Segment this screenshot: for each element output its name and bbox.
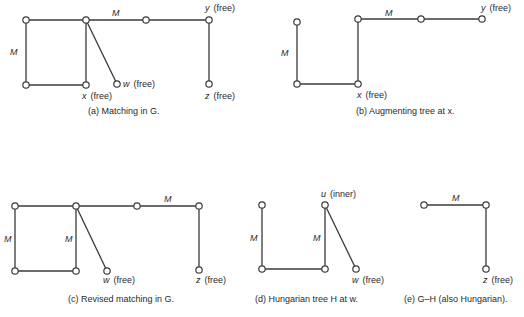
vertex-label-y: y(free)	[204, 3, 235, 13]
vertex-note: (free)	[91, 91, 113, 101]
vertex-w	[104, 268, 110, 274]
vertex-label-z: z(free)	[195, 275, 226, 285]
vertex-note: (inner)	[330, 189, 356, 199]
vertex-name: x	[81, 91, 87, 101]
vertex	[73, 203, 79, 209]
vertex	[134, 203, 140, 209]
vertex-label-z: z(free)	[204, 91, 235, 101]
vertex-label-x: x(free)	[81, 91, 112, 101]
vertex-label-x: x(free)	[356, 90, 387, 100]
vertex-note: (free)	[114, 275, 136, 285]
vertex-x	[355, 81, 361, 87]
panel-c: MMMw(free)z(free)(c) Revised matching in…	[4, 194, 226, 304]
matching-diagram: MMx(free)w(free)y(free)z(free)(a) Matchi…	[0, 0, 524, 317]
caption-a: (a) Matching in G.	[88, 106, 160, 116]
vertex	[421, 202, 427, 208]
matching-label: M	[281, 48, 289, 58]
vertex	[418, 16, 424, 22]
matching-label: M	[452, 193, 460, 203]
vertex	[73, 268, 79, 274]
vertex-note: (free)	[363, 275, 385, 285]
vertex	[322, 266, 328, 272]
matching-label: M	[65, 234, 73, 244]
matching-label: M	[313, 233, 321, 243]
vertex	[143, 17, 149, 23]
vertex-z	[206, 81, 212, 87]
vertex-x	[83, 82, 89, 88]
vertex-z	[483, 266, 489, 272]
vertex-label-u: u(inner)	[321, 189, 356, 199]
vertex	[196, 203, 202, 209]
vertex	[294, 19, 300, 25]
edge	[86, 20, 117, 84]
matching-label: M	[250, 233, 258, 243]
vertex-note: (free)	[492, 275, 514, 285]
panels-group: MMx(free)w(free)y(free)z(free)(a) Matchi…	[4, 3, 513, 304]
panel-e: Mz(free)(e) G–H (also Hungarian).	[404, 193, 513, 304]
vertex-name: z	[204, 91, 210, 101]
vertex-name: x	[356, 90, 362, 100]
vertex-name: u	[321, 189, 326, 199]
vertex-note: (free)	[205, 275, 227, 285]
vertex	[294, 81, 300, 87]
vertex-note: (free)	[134, 79, 156, 89]
vertex	[23, 17, 29, 23]
vertex-w	[353, 266, 359, 272]
vertex-name: w	[123, 79, 130, 89]
caption-b: (b) Augmenting tree at x.	[356, 106, 455, 116]
matching-label: M	[164, 194, 172, 204]
vertex-note: (free)	[490, 3, 512, 13]
vertex	[12, 203, 18, 209]
caption-e: (e) G–H (also Hungarian).	[404, 294, 508, 304]
vertex	[259, 266, 265, 272]
matching-label: M	[385, 8, 393, 18]
vertex	[12, 268, 18, 274]
vertex	[23, 82, 29, 88]
vertex-name: w	[352, 275, 359, 285]
panel-a: MMx(free)w(free)y(free)z(free)(a) Matchi…	[10, 3, 235, 116]
vertex-z	[196, 267, 202, 273]
vertex-note: (free)	[214, 3, 236, 13]
vertex	[355, 16, 361, 22]
vertex-name: w	[103, 275, 110, 285]
vertex-label-y: y(free)	[480, 3, 511, 13]
caption-d: (d) Hungarian tree H at w.	[255, 294, 358, 304]
vertex-name: y	[480, 3, 486, 13]
matching-label: M	[112, 8, 120, 18]
matching-label: M	[10, 47, 18, 57]
vertex-label-z: z(free)	[482, 275, 513, 285]
vertex-name: z	[482, 275, 488, 285]
vertex-y	[479, 16, 485, 22]
panel-b: MMx(free)y(free)(b) Augmenting tree at x…	[281, 3, 511, 116]
matching-label: M	[4, 234, 12, 244]
edge	[325, 205, 356, 269]
vertex-label-w: w(free)	[103, 275, 135, 285]
edge	[76, 206, 107, 271]
vertex	[259, 202, 265, 208]
vertex-y	[206, 17, 212, 23]
vertex-u	[322, 202, 328, 208]
vertex-note: (free)	[366, 90, 388, 100]
vertex	[83, 17, 89, 23]
vertex-note: (free)	[214, 91, 236, 101]
vertex-name: y	[204, 3, 210, 13]
vertex-label-w: w(free)	[123, 79, 155, 89]
vertex	[483, 202, 489, 208]
panel-d: MMu(inner)w(free)(d) Hungarian tree H at…	[250, 189, 384, 304]
caption-c: (c) Revised matching in G.	[68, 294, 174, 304]
vertex-w	[114, 81, 120, 87]
vertex-name: z	[195, 275, 201, 285]
vertex-label-w: w(free)	[352, 275, 384, 285]
